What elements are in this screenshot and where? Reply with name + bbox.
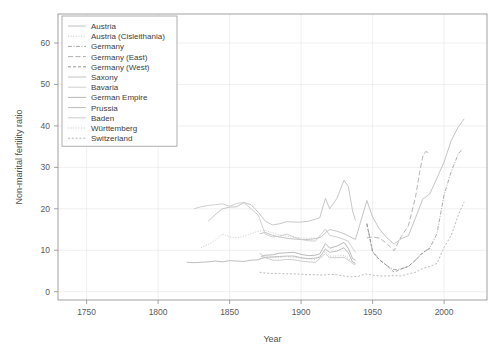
legend-label: German Empire	[91, 93, 148, 102]
y-axis-title: Non-marital fertility ratio	[14, 109, 24, 204]
y-tick-label: 10	[41, 245, 51, 255]
y-tick-label: 30	[41, 162, 51, 172]
x-tick-label: 1950	[363, 307, 382, 317]
x-tick-label: 1900	[292, 307, 311, 317]
y-tick-label: 40	[41, 121, 51, 131]
x-tick-label: 1800	[149, 307, 168, 317]
legend-label: Baden	[91, 114, 114, 123]
y-tick-label: 60	[41, 38, 51, 48]
legend-label: Germany	[91, 42, 124, 51]
legend-label: Prussia	[91, 104, 118, 113]
legend-label: Austria	[91, 22, 116, 31]
non-marital-fertility-line-chart: 175018001850190019502000 0102030405060 Y…	[0, 0, 502, 352]
y-tick-label: 0	[45, 287, 50, 297]
legend-label: Germany (East)	[91, 53, 148, 62]
legend-label: Württemberg	[91, 124, 137, 133]
legend-label: Bavaria	[91, 83, 119, 92]
legend-label: Saxony	[91, 73, 118, 82]
x-tick-label: 1850	[220, 307, 239, 317]
chart-figure: 175018001850190019502000 0102030405060 Y…	[0, 0, 502, 352]
x-tick-label: 1750	[77, 307, 96, 317]
legend-label: Germany (West)	[91, 63, 150, 72]
legend-label: Switzerland	[91, 134, 132, 143]
legend-label: Austria (Cisleithania)	[91, 32, 165, 41]
chart-legend: AustriaAustria (Cisleithania)GermanyGerm…	[62, 16, 177, 146]
y-tick-label: 50	[41, 79, 51, 89]
x-tick-label: 2000	[435, 307, 454, 317]
y-tick-label: 20	[41, 204, 51, 214]
x-axis-title: Year	[263, 334, 281, 344]
